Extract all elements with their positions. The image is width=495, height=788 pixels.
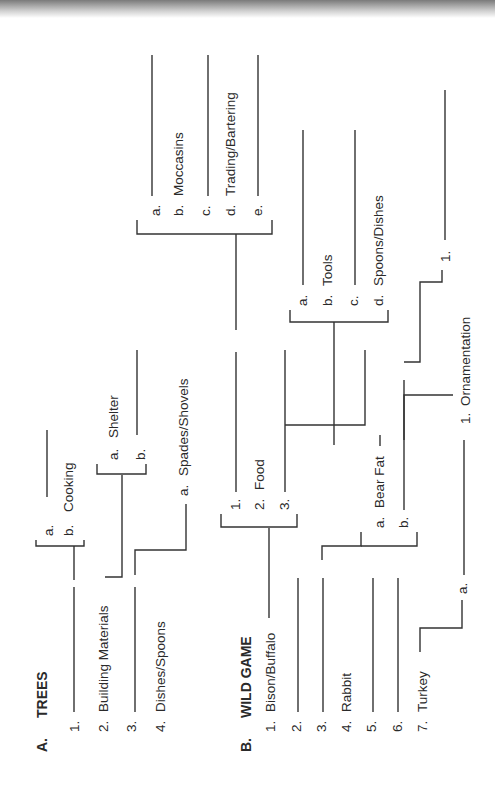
bearfat-sub-1-num: 1. (458, 413, 473, 424)
use3-sub-a-num: a. (295, 295, 310, 306)
connector (404, 270, 442, 362)
use3-sub-b-num: b. (320, 295, 335, 306)
use3-sub-d-num: d. (371, 295, 386, 306)
b-item-7-num: 7. (415, 721, 430, 732)
a-item-4-label: Dishes/Spoons (153, 621, 168, 712)
b-item-3-num: 3. (314, 721, 329, 732)
bison-use-2-label: Food (252, 459, 267, 490)
use1-sub-a-num: a. (148, 205, 163, 216)
bracket (137, 220, 272, 234)
bracket (290, 310, 388, 322)
a1-sub-b-num: b. (61, 525, 76, 536)
a2-sub-b-num: b. (133, 449, 148, 460)
a4-sub-a-label: Spades/Shovels (176, 378, 191, 476)
use3-sub-c-num: c. (346, 295, 361, 306)
section-a-letter: A. (34, 738, 50, 752)
concept-web-diagram: A. TREES 1. 2. Building Materials 3. 4. … (0, 0, 495, 788)
section-b-letter: B. (238, 738, 254, 752)
b-item-4-num: 4. (339, 721, 354, 732)
a-item-1-num: 1. (67, 721, 82, 732)
use1-sub-e-num: e. (250, 205, 265, 216)
b-item-2-num: 2. (289, 721, 304, 732)
bracket (36, 540, 84, 546)
use1-sub-c-num: c. (198, 205, 213, 216)
a-item-4-num: 4. (153, 721, 168, 732)
connector (404, 395, 453, 440)
turkey-sub-a-num: a. (455, 583, 470, 594)
b-item-1-label: Bison/Buffalo (263, 633, 278, 712)
section-b-title: WILD GAME (238, 636, 254, 718)
item3-sub-b-num: b. (396, 517, 411, 528)
a1-sub-a-num: a. (41, 525, 56, 536)
bracket (97, 464, 146, 474)
a4-sub-a-num: a. (176, 485, 191, 496)
bison-use-1-num: 1. (228, 499, 243, 510)
use1-sub-d-num: d. (223, 205, 238, 216)
a2-sub-a-num: a. (106, 449, 121, 460)
bison-use-2-num: 2. (252, 499, 267, 510)
b-sub-sub-1-num: 1. (438, 251, 453, 262)
connector (322, 532, 361, 560)
item3-sub-a-label: Bear Fat (372, 456, 387, 508)
b-item-5-num: 5. (364, 721, 379, 732)
use3-sub-d-label: Spoons/Dishes (371, 195, 386, 286)
a-item-2-label: Building Materials (96, 605, 111, 712)
a-item-3-num: 3. (124, 721, 139, 732)
use1-sub-b-label: Moccasins (171, 132, 186, 196)
connector (285, 350, 365, 425)
section-a-title: TREES (34, 671, 50, 718)
use1-sub-b-num: b. (171, 205, 186, 216)
a2-sub-a-label: Shelter (106, 395, 121, 438)
bracket (361, 532, 417, 546)
item3-sub-a-num: a. (372, 517, 387, 528)
connector (135, 504, 186, 575)
bison-use-3-num: 3. (277, 499, 292, 510)
a-item-2-num: 2. (96, 721, 111, 732)
a1-sub-b-label: Cooking (61, 462, 76, 512)
use1-sub-d-label: Trading/Bartering (223, 92, 238, 196)
b-item-1-num: 1. (263, 721, 278, 732)
bearfat-sub-1-label: Ornamentation (458, 317, 473, 406)
bracket (221, 514, 297, 527)
b-item-6-num: 6. (390, 721, 405, 732)
b-item-7-label: Turkey (415, 671, 430, 712)
b-item-4-label: Rabbit (339, 673, 354, 712)
connector (105, 475, 122, 577)
connector (420, 600, 462, 652)
use3-sub-b-label: Tools (320, 254, 335, 286)
